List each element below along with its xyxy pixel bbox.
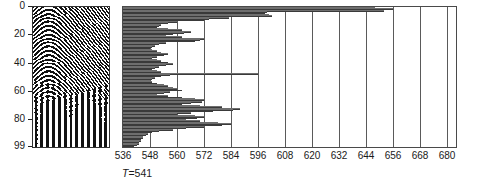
y-tick-label: 40 xyxy=(14,58,25,68)
y-tick-label: 0 xyxy=(19,1,25,11)
grid-line xyxy=(420,7,421,147)
x-tick-label: 608 xyxy=(277,150,294,161)
bar-chart-plot-area xyxy=(122,6,457,148)
grid-line xyxy=(258,7,259,147)
x-tick-label: 548 xyxy=(142,150,159,161)
t-value-annotation: T=541 xyxy=(122,167,152,179)
grid-line xyxy=(339,7,340,147)
seismic-y-axis: 02040608099 xyxy=(0,0,32,152)
x-tick-label: 644 xyxy=(358,150,375,161)
x-tick-label: 620 xyxy=(304,150,321,161)
x-tick-label: 680 xyxy=(439,150,456,161)
x-tick-label: 584 xyxy=(223,150,240,161)
x-tick-label: 596 xyxy=(250,150,267,161)
figure-root: 02040608099 5365485605725845966086206326… xyxy=(0,0,477,191)
y-tick-label: 20 xyxy=(14,29,25,39)
y-tick-label: 99 xyxy=(14,141,25,151)
x-tick-label: 536 xyxy=(115,150,132,161)
bar-chart-x-axis: 536548560572584596608620632644656668680 xyxy=(119,150,477,164)
grid-line xyxy=(366,7,367,147)
grid-line xyxy=(231,7,232,147)
grid-line xyxy=(447,7,448,147)
y-tick-label: 80 xyxy=(14,114,25,124)
grid-line xyxy=(312,7,313,147)
x-tick-label: 560 xyxy=(169,150,186,161)
grid-line xyxy=(393,7,394,147)
x-tick-label: 572 xyxy=(196,150,213,161)
seismic-plot-area xyxy=(32,6,110,148)
seismic-wiggle-image xyxy=(33,7,109,147)
seismic-panel: 02040608099 xyxy=(0,0,118,160)
x-tick-label: 632 xyxy=(331,150,348,161)
bar-chart-panel: 536548560572584596608620632644656668680 … xyxy=(119,0,477,191)
x-tick-label: 656 xyxy=(385,150,402,161)
t-number: 541 xyxy=(135,167,153,179)
bar-edge xyxy=(123,146,134,147)
y-tick-label: 60 xyxy=(14,86,25,96)
grid-line xyxy=(285,7,286,147)
x-tick-label: 668 xyxy=(412,150,429,161)
